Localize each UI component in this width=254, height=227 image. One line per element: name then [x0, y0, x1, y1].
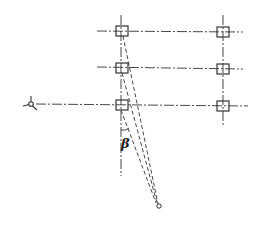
- grid-axes: [36, 15, 248, 176]
- angle-label-beta: β: [121, 136, 130, 151]
- marker-left-middle: [116, 63, 128, 73]
- survey-diagram: [0, 0, 254, 227]
- tripod-icon: [23, 96, 37, 110]
- sight-lines: [121, 36, 158, 204]
- sight-line-top: [123, 36, 158, 204]
- row-axis-middle: [97, 67, 243, 69]
- sight-line-bottom: [121, 110, 156, 203]
- point-circle-icon: [157, 204, 161, 208]
- row-axis-bottom: [36, 104, 248, 106]
- row-axis-top: [97, 31, 243, 32]
